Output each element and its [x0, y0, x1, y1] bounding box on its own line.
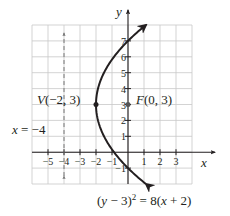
x-tick-label: −3 — [75, 156, 86, 167]
x-axis-label: x — [200, 155, 207, 170]
y-tick-label: 4 — [121, 84, 126, 95]
x-tick-label: 2 — [158, 156, 163, 167]
y-axis-label: y — [114, 4, 122, 19]
y-tick-label: 3 — [121, 100, 126, 111]
y-tick-label: 1 — [121, 131, 126, 142]
focus-point — [126, 102, 131, 107]
y-tick-label: 6 — [121, 52, 126, 63]
x-tick-label: −5 — [43, 156, 54, 167]
directrix-label: x = −4 — [11, 122, 46, 137]
vertex-point — [94, 102, 99, 107]
vertex-label: V(−2, 3) — [37, 92, 80, 107]
x-tick-label: 1 — [142, 156, 147, 167]
parabola-chart: −5−4−3−2−1123−11234567 x y V(−2, 3) F(0,… — [0, 0, 230, 216]
y-tick-label: 2 — [121, 115, 126, 126]
x-tick-label: 3 — [174, 156, 179, 167]
focus-label: F(0, 3) — [135, 92, 172, 107]
x-tick-label: −2 — [91, 156, 102, 167]
equation-label: (y − 3)2 = 8(x + 2) — [97, 192, 191, 208]
y-tick-label: 5 — [121, 68, 126, 79]
